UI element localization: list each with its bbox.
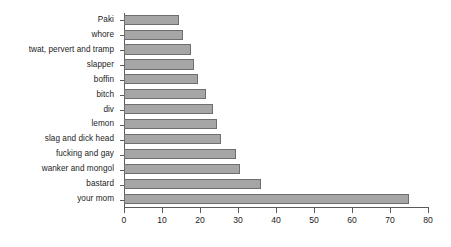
bar-row: [124, 147, 428, 161]
bar: [124, 104, 213, 114]
category-label: boffin: [94, 73, 114, 87]
bar: [124, 44, 191, 54]
bar: [124, 15, 179, 25]
bar-row: [124, 73, 428, 87]
category-label: lemon: [91, 117, 114, 131]
x-axis-tick: [238, 208, 239, 213]
category-axis-labels: Pakiwhoretwat, pervert and trampslapperb…: [0, 13, 118, 207]
x-axis-tick-label: 30: [233, 215, 243, 225]
category-label: slapper: [87, 58, 114, 72]
bar-row: [124, 132, 428, 146]
bar: [124, 89, 206, 99]
x-axis-tick-label: 80: [423, 215, 433, 225]
category-label: whore: [91, 28, 114, 42]
x-axis-tick: [314, 208, 315, 213]
bar: [124, 194, 409, 204]
bar: [124, 164, 240, 174]
x-axis-tick: [428, 208, 429, 213]
category-label: Paki: [98, 13, 114, 27]
x-axis-tick: [352, 208, 353, 213]
bar: [124, 134, 221, 144]
category-label: div: [103, 103, 114, 117]
bar: [124, 179, 261, 189]
category-label: bitch: [96, 88, 114, 102]
bar: [124, 119, 217, 129]
bar: [124, 30, 183, 40]
bar-row: [124, 58, 428, 72]
x-axis-tick-label: 0: [122, 215, 127, 225]
x-axis-tick: [124, 208, 125, 213]
x-axis-tick-label: 70: [385, 215, 395, 225]
category-label: slag and dick head: [45, 132, 114, 146]
bar: [124, 59, 194, 69]
bar-row: [124, 43, 428, 57]
x-axis-tick: [162, 208, 163, 213]
x-axis-tick-label: 40: [271, 215, 281, 225]
x-axis-tick-label: 50: [309, 215, 319, 225]
bar-row: [124, 117, 428, 131]
category-label: twat, pervert and tramp: [29, 43, 114, 57]
bar-chart: Pakiwhoretwat, pervert and trampslapperb…: [0, 0, 451, 247]
x-axis-tick: [390, 208, 391, 213]
bar-row: [124, 13, 428, 27]
x-axis-tick-label: 10: [157, 215, 167, 225]
bar-row: [124, 88, 428, 102]
x-axis-tick-label: 20: [195, 215, 205, 225]
bar-row: [124, 28, 428, 42]
bar: [124, 149, 236, 159]
category-label: wanker and mongol: [42, 162, 114, 176]
bar-row: [124, 177, 428, 191]
bar-row: [124, 103, 428, 117]
bar: [124, 74, 198, 84]
x-axis-tick: [276, 208, 277, 213]
category-label: bastard: [86, 177, 114, 191]
category-label: fucking and gay: [56, 147, 114, 161]
category-label: your mom: [77, 192, 114, 206]
plot-area: [124, 13, 428, 207]
x-axis-tick: [200, 208, 201, 213]
bar-row: [124, 192, 428, 206]
x-axis-tick-label: 60: [347, 215, 357, 225]
bar-row: [124, 162, 428, 176]
